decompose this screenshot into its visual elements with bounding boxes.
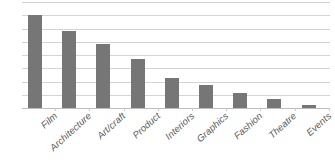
bar-slot (125, 2, 159, 108)
bars-container (22, 2, 330, 108)
x-axis-label-graphics: Graphics (194, 110, 230, 144)
bar-film[interactable] (28, 15, 42, 108)
plot-area (22, 2, 330, 108)
bar-slot (22, 2, 56, 108)
bar-product[interactable] (131, 59, 145, 108)
bar-interiors[interactable] (165, 78, 179, 108)
x-axis-label-events: Events (304, 110, 333, 138)
bar-slot (193, 2, 227, 108)
x-axis-labels: FilmArchitectureArt/craftProductInterior… (22, 110, 335, 160)
x-axis-label-theatre: Theatre (267, 110, 299, 141)
bar-art-craft[interactable] (96, 44, 110, 108)
x-axis-label-film: Film (38, 110, 59, 130)
bar-slot (56, 2, 90, 108)
x-axis-label-interiors: Interiors (163, 110, 197, 142)
bar-graphics[interactable] (199, 85, 213, 108)
x-axis-label-fashion: Fashion (232, 110, 265, 141)
bar-theatre[interactable] (267, 99, 281, 108)
bar-fashion[interactable] (233, 93, 247, 108)
bar-slot (261, 2, 295, 108)
bar-architecture[interactable] (62, 31, 76, 109)
bar-slot (296, 2, 330, 108)
bar-slot (90, 2, 124, 108)
x-axis-label-product: Product (130, 110, 162, 141)
bar-slot (159, 2, 193, 108)
bar-chart: FilmArchitectureArt/craftProductInterior… (0, 0, 335, 160)
bar-slot (227, 2, 261, 108)
x-axis-label-art-craft: Art/craft (95, 110, 128, 141)
